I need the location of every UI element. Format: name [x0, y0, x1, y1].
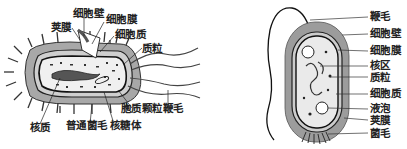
label-cell-membrane-left: 细胞膜 — [106, 14, 137, 25]
label-nucleoid-left: 核质 — [30, 122, 51, 133]
right-bacterium-figure: 鞭毛 细胞壁 细胞膜 核区 质粒 细胞质 液泡 荚膜 菌毛 — [240, 0, 407, 149]
label-plasmid-right: 质粒 — [370, 72, 391, 83]
label-vacuole-right: 液泡 — [370, 103, 391, 114]
label-cell-membrane-right: 细胞膜 — [370, 45, 401, 56]
label-ribosome-left: 核糖体 — [110, 120, 141, 131]
label-flagellum-left: 鞭毛 — [163, 103, 184, 114]
right-vacuole-top — [302, 46, 314, 58]
label-cell-wall-right: 细胞壁 — [370, 28, 401, 39]
right-vacuole-bottom — [316, 102, 328, 114]
label-cell-wall-left: 细胞壁 — [73, 8, 104, 19]
label-nucleoid-region-right: 核区 — [370, 60, 391, 71]
label-pili-right: 菌毛 — [370, 128, 391, 139]
label-flagellum-right: 鞭毛 — [370, 11, 391, 22]
label-cytoplasmic-granules-left: 胞质颗粒 — [121, 103, 162, 114]
label-cytoplasm-right: 细胞质 — [370, 88, 401, 99]
label-capsule-right: 荚膜 — [370, 115, 391, 126]
left-bacterium-figure: 荚膜 细胞壁 细胞膜 细胞质 质粒 胞质颗粒 鞭毛 核质 普通菌毛 核糖体 — [0, 0, 210, 149]
label-common-pili-left: 普通菌毛 — [66, 120, 107, 131]
label-cytoplasm-left: 细胞质 — [115, 29, 146, 40]
label-capsule-left: 荚膜 — [51, 22, 72, 33]
label-plasmid-left: 质粒 — [142, 43, 163, 54]
